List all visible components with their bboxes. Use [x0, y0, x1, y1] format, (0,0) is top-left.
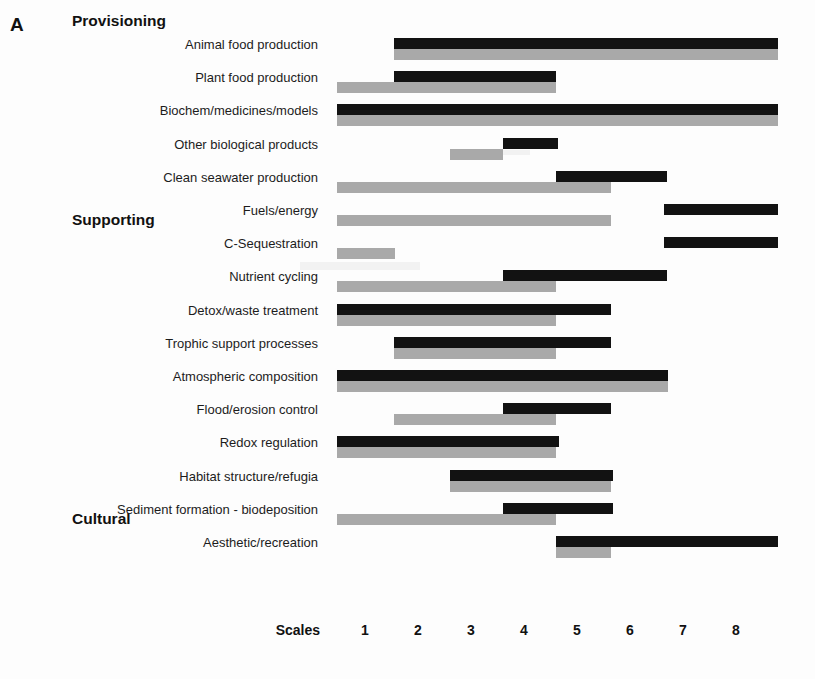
bar-black	[394, 337, 611, 348]
bar-grey	[337, 82, 556, 93]
x-tick-label: 6	[620, 622, 640, 638]
bar-black	[337, 370, 668, 381]
axis-title: Scales	[170, 622, 320, 638]
bar-black	[337, 436, 559, 447]
bar-black	[503, 270, 667, 281]
bar-grey	[450, 481, 612, 492]
bar-grey	[394, 49, 778, 60]
bar-grey	[556, 547, 612, 558]
bar-grey	[337, 381, 668, 392]
bar-black	[556, 171, 667, 182]
plot-area	[0, 0, 815, 620]
bar-grey	[337, 215, 612, 226]
bar-grey	[337, 115, 778, 126]
bar-black	[450, 470, 613, 481]
bar-black	[503, 403, 612, 414]
bar-grey	[337, 315, 556, 326]
bar-grey	[394, 348, 556, 359]
bar-black	[503, 138, 559, 149]
bar-black	[394, 71, 556, 82]
bar-black	[337, 104, 778, 115]
x-tick-label: 2	[408, 622, 428, 638]
bar-grey	[337, 182, 612, 193]
bar-black	[664, 204, 778, 215]
bar-grey	[337, 514, 556, 525]
x-tick-label: 5	[567, 622, 587, 638]
bar-grey	[450, 149, 503, 160]
bar-black	[337, 304, 612, 315]
bar-black	[664, 237, 778, 248]
bar-black	[556, 536, 779, 547]
bar-grey	[337, 248, 395, 259]
bar-black	[394, 38, 778, 49]
x-tick-label: 8	[726, 622, 746, 638]
x-tick-label: 7	[673, 622, 693, 638]
x-axis: Scales 12345678	[0, 616, 815, 656]
bar-grey	[337, 281, 556, 292]
figure-panel-a: A ProvisioningSupportingCulturalAnimal f…	[0, 0, 815, 679]
bar-grey	[394, 414, 556, 425]
x-tick-label: 1	[355, 622, 375, 638]
bar-grey	[337, 447, 556, 458]
bar-black	[503, 503, 613, 514]
x-tick-label: 3	[461, 622, 481, 638]
x-tick-label: 4	[514, 622, 534, 638]
